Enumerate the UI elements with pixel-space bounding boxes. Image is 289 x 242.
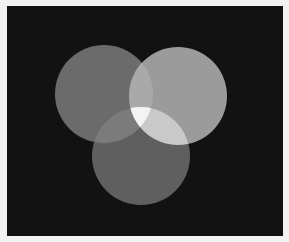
circles-figure: [0, 0, 289, 242]
venn-scene: Three overlapping translucent circles on…: [0, 0, 289, 242]
